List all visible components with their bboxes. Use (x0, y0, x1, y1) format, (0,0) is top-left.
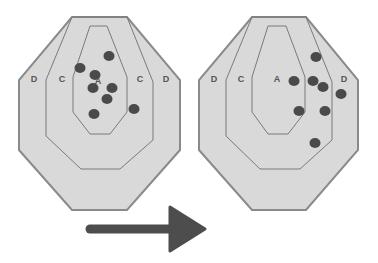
bullet-hole-icon (320, 106, 331, 116)
bullet-hole-icon (318, 82, 329, 92)
bullet-hole-icon (89, 109, 100, 119)
bullet-hole-icon (289, 76, 300, 86)
bullet-hole-icon (336, 89, 347, 99)
zone-d-outline (19, 17, 180, 210)
zone-label-d: D (163, 74, 170, 84)
zone-label-d: D (341, 74, 348, 84)
zone-label-c: C (59, 74, 66, 84)
bullet-hole-icon (129, 104, 140, 114)
target-after: DCAD (199, 17, 358, 210)
zone-label-d: D (211, 74, 218, 84)
bullet-hole-icon (90, 70, 101, 80)
zone-label-c: C (238, 74, 245, 84)
zone-label-d: D (31, 74, 38, 84)
bullet-hole-icon (104, 51, 115, 61)
zone-label-c: C (137, 74, 144, 84)
target-before: DCACD (19, 17, 180, 210)
bullet-hole-icon (107, 83, 118, 93)
bullet-hole-icon (294, 106, 305, 116)
arrow-right-icon (90, 207, 205, 251)
bullet-hole-icon (308, 76, 319, 86)
diagram-canvas: DCACD DCAD (0, 0, 378, 263)
zone-label-a: A (274, 74, 281, 84)
bullet-hole-icon (75, 63, 86, 73)
bullet-hole-icon (102, 94, 113, 104)
bullet-hole-icon (88, 83, 99, 93)
zone-d-outline (199, 17, 358, 210)
target-comparison-diagram: DCACD DCAD (0, 0, 378, 263)
bullet-hole-icon (310, 138, 321, 148)
bullet-hole-icon (311, 52, 322, 62)
